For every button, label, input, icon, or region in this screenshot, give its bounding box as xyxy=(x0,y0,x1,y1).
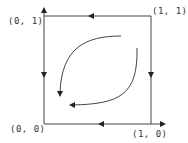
arrow-up-icon xyxy=(41,7,47,13)
arrow-left-icon xyxy=(69,102,75,108)
arrow-down-icon xyxy=(148,72,154,78)
arrow-left-icon xyxy=(88,13,94,19)
label-top-right: (1, 1) xyxy=(152,6,188,16)
arrow-down-icon xyxy=(41,72,47,78)
trajectory-1 xyxy=(60,36,121,92)
arrow-right-icon xyxy=(160,121,166,127)
arrow-left-icon xyxy=(98,121,104,127)
label-top-left: (0, 1) xyxy=(8,16,44,26)
trajectory-2 xyxy=(72,48,137,105)
arrow-down-icon xyxy=(57,91,63,97)
label-bottom-left: (0, 0) xyxy=(10,124,46,134)
label-bottom-right: (1, 0) xyxy=(132,129,168,139)
